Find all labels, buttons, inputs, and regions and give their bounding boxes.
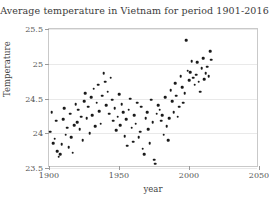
data-point (115, 129, 118, 132)
gridline-horizontal (49, 29, 257, 30)
data-point (65, 133, 68, 136)
data-point (137, 136, 140, 139)
data-point (79, 128, 82, 131)
data-point (146, 111, 149, 114)
data-point (150, 99, 153, 102)
data-point (188, 79, 191, 82)
data-point (74, 103, 77, 106)
data-point (55, 119, 58, 122)
data-point (128, 108, 131, 111)
data-point (63, 107, 66, 110)
data-point (98, 110, 101, 113)
data-point (177, 115, 180, 118)
data-point (171, 100, 174, 103)
data-point (170, 89, 173, 92)
data-point (181, 86, 184, 89)
data-point (66, 126, 69, 129)
x-tick-mark (49, 166, 50, 170)
data-point (105, 104, 108, 107)
data-point (60, 143, 63, 146)
x-tick-label: 2050 (249, 171, 269, 180)
data-point (185, 39, 188, 42)
y-tick-label: 24 (33, 129, 43, 138)
data-point (91, 114, 94, 117)
x-tick-label: 2000 (179, 171, 199, 180)
data-point (107, 90, 110, 93)
data-point (108, 112, 111, 115)
data-point (104, 81, 107, 84)
data-point (62, 118, 65, 121)
x-tick-mark (189, 166, 190, 170)
data-point (94, 125, 97, 128)
data-point (165, 125, 168, 128)
data-point (114, 107, 117, 110)
data-point (80, 115, 83, 118)
gridline-horizontal (49, 168, 257, 169)
data-point (199, 90, 202, 93)
data-point (209, 50, 212, 53)
data-point (88, 132, 91, 135)
data-point (97, 83, 100, 86)
x-tick-mark (119, 166, 120, 170)
chart-title: Average temperature in Vietnam for perio… (0, 5, 269, 16)
data-point (73, 124, 76, 127)
y-tick-mark (45, 29, 49, 30)
data-point (52, 142, 55, 145)
data-point (58, 156, 61, 159)
data-point (112, 119, 115, 122)
data-point (198, 81, 201, 84)
data-point (153, 158, 156, 161)
data-point (69, 112, 72, 115)
data-point (51, 111, 54, 114)
data-point (130, 126, 133, 129)
data-point (70, 136, 73, 139)
data-point (168, 117, 171, 120)
data-point (202, 57, 205, 60)
y-tick-label: 25.5 (25, 25, 43, 34)
data-point (178, 106, 181, 109)
data-point (195, 74, 198, 77)
data-point (154, 163, 157, 166)
y-tick-label: 24.5 (25, 94, 43, 103)
data-point (83, 100, 86, 103)
data-point (142, 147, 145, 150)
data-point (67, 146, 70, 149)
data-point (123, 135, 126, 138)
data-point (77, 108, 80, 111)
x-axis-title: year (48, 184, 258, 194)
y-axis-title: Temperature (2, 41, 12, 97)
y-tick-mark (45, 99, 49, 100)
data-point (172, 111, 175, 114)
data-point (93, 87, 96, 90)
data-point (136, 101, 139, 104)
data-point (191, 60, 194, 63)
data-point (81, 139, 84, 142)
data-point (53, 138, 56, 141)
data-point (100, 122, 103, 125)
data-point (109, 76, 112, 79)
data-point (72, 151, 75, 154)
data-point (111, 99, 114, 102)
data-point (132, 140, 135, 143)
data-point (143, 153, 146, 156)
data-point (158, 108, 161, 111)
data-point (139, 131, 142, 134)
data-point (49, 131, 52, 134)
data-point (196, 61, 199, 64)
data-point (182, 101, 185, 104)
data-point (76, 121, 79, 124)
data-point (147, 128, 150, 131)
data-point (86, 117, 89, 120)
data-point (84, 92, 87, 95)
y-tick-label: 25 (33, 59, 43, 68)
data-point (160, 119, 163, 122)
gridline-horizontal (49, 64, 257, 65)
data-point (207, 75, 210, 78)
data-point (122, 111, 125, 114)
data-point (125, 118, 128, 121)
chart-page: Average temperature in Vietnam for perio… (0, 0, 269, 201)
data-point (119, 124, 122, 127)
data-point (151, 121, 154, 124)
data-point (167, 139, 170, 142)
data-point (102, 72, 105, 75)
